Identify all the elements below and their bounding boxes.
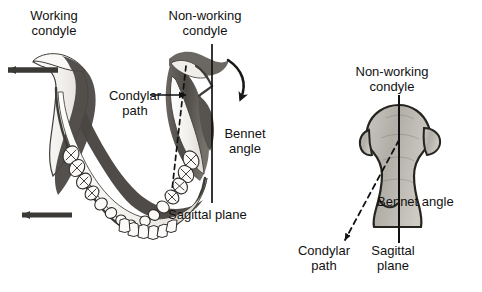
label-sagittal-plane-left: Sagittal plane [168, 207, 272, 222]
condyle-detail-drawing [345, 95, 440, 243]
label-condylar-path-left: Condylar path [99, 88, 171, 118]
label-sagittal-plane-right: Sagittal plane [362, 243, 424, 273]
anatomy-diagram-figure: Working condyle Non-working condyle Cond… [0, 0, 482, 292]
condyle-lateral-pole [424, 128, 440, 155]
label-non-working-condyle-left: Non-working condyle [150, 8, 260, 38]
label-condylar-path-right: Condylar path [293, 243, 355, 273]
label-non-working-condyle-right: Non-working condyle [333, 64, 451, 94]
rotation-arrow-curved [228, 60, 244, 98]
label-bennet-angle-left: Bennet angle [215, 126, 275, 156]
label-working-condyle: Working condyle [4, 8, 104, 38]
label-bennet-angle-right: Bennet angle [377, 194, 481, 209]
